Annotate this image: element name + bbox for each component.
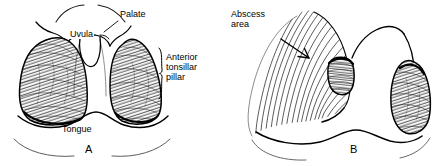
tonsil-right-a: [110, 39, 161, 124]
label-anterior-tonsillar-pillar-line2: tonsillar: [166, 62, 198, 72]
label-abscess-area-line2: area: [231, 19, 265, 29]
panel-b-drawing: [248, 8, 430, 160]
label-anterior-tonsillar-pillar-line3: pillar: [166, 72, 198, 82]
tonsil-left-a: [19, 38, 87, 125]
figure-oropharynx-illustration: Palate Uvula Anterior tonsillar pillar T…: [0, 0, 437, 166]
label-abscess-area: Abscess area: [231, 9, 265, 29]
tongue-b: [256, 130, 422, 144]
panel-letter-a: A: [85, 143, 92, 155]
panel-a-drawing: [14, 5, 170, 157]
uvula-b: [327, 57, 356, 94]
label-abscess-area-line1: Abscess: [231, 9, 265, 19]
label-palate: Palate: [120, 9, 146, 19]
illustration-canvas: [0, 0, 437, 166]
label-tongue: Tongue: [62, 124, 92, 134]
label-anterior-tonsillar-pillar-line1: Anterior: [166, 52, 198, 62]
palate-leader-line: [104, 21, 118, 32]
label-anterior-tonsillar-pillar: Anterior tonsillar pillar: [166, 52, 198, 82]
label-uvula: Uvula: [69, 29, 94, 39]
tonsil-right-b: [389, 61, 430, 134]
soft-palate-dashed-arc: [56, 5, 125, 23]
panel-letter-b: B: [350, 143, 357, 155]
